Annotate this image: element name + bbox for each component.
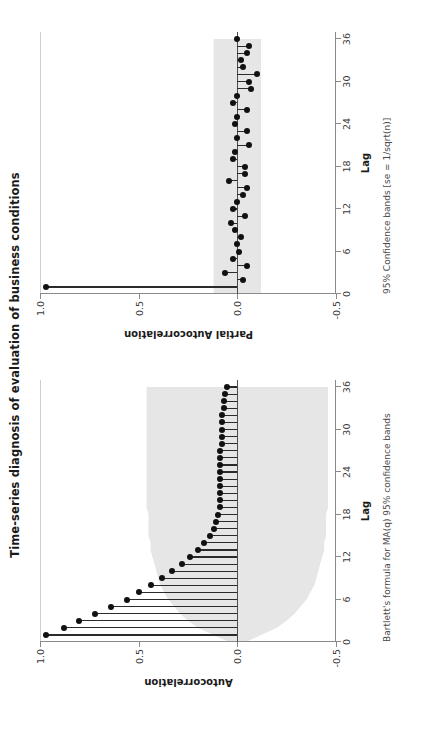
x-tick-label: 12 (341, 203, 352, 215)
stem (204, 542, 238, 543)
stem (46, 286, 237, 287)
data-point (248, 86, 254, 92)
x-tick-label: 18 (341, 161, 352, 173)
pacf-zero-line (237, 32, 238, 294)
y-tick-label: 0.5 (133, 649, 144, 664)
y-tick-label: 1.0 (35, 649, 46, 664)
data-point (244, 185, 250, 191)
data-point (43, 632, 49, 638)
stem (111, 606, 237, 607)
y-tick-label: -0.5 (331, 301, 342, 320)
y-tick (139, 642, 140, 647)
data-point (246, 79, 252, 85)
stem (151, 585, 238, 586)
data-point (217, 490, 223, 496)
y-tick (237, 642, 238, 647)
y-tick (336, 642, 337, 647)
data-point (124, 597, 130, 603)
data-point (108, 604, 114, 610)
data-point (219, 412, 225, 418)
pacf-y-axis-title-text: Partial Autocorrelation (124, 330, 253, 341)
stem (182, 564, 237, 565)
stem (172, 571, 237, 572)
x-tick-label: 24 (341, 118, 352, 130)
panel-autocorrelation: Autocorrelation 1.00.50.0-0.506121824303… (34, 364, 406, 694)
y-tick-label: 0.0 (232, 649, 243, 664)
y-tick (237, 294, 238, 299)
y-tick-label: 1.0 (35, 301, 46, 316)
rotated-figure-wrapper: Time-series diagnosis of evaluation of b… (0, 0, 439, 730)
data-point (217, 476, 223, 482)
acf-plot-area: 1.00.50.0-0.5061218243036 (40, 380, 336, 642)
data-point (236, 249, 242, 255)
data-point (207, 533, 213, 539)
stem (216, 521, 238, 522)
data-point (217, 497, 223, 503)
data-point (215, 512, 221, 518)
y-tick (40, 294, 41, 299)
pacf-x-axis-line (335, 32, 336, 294)
x-tick-label: 36 (341, 33, 352, 45)
x-tick-label: 12 (341, 551, 352, 563)
pacf-plot-area: 1.00.50.0-0.5061218243036 (40, 32, 336, 294)
panel-partial-autocorrelation: Partial Autocorrelation 1.00.50.0-0.5061… (34, 16, 406, 346)
stem (198, 549, 237, 550)
x-tick-label: 0 (341, 291, 352, 297)
pacf-confidence-band (40, 32, 336, 294)
data-point (217, 483, 223, 489)
data-point (219, 434, 225, 440)
stem (190, 556, 237, 557)
y-tick (40, 642, 41, 647)
x-tick-label: 0 (341, 639, 352, 645)
data-point (187, 554, 193, 560)
data-point (217, 469, 223, 475)
y-tick-label: 0.0 (232, 301, 243, 316)
acf-x-axis-line (335, 380, 336, 642)
data-point (148, 582, 154, 588)
x-tick-label: 30 (341, 76, 352, 88)
acf-y-axis-title: Autocorrelation (40, 676, 336, 690)
pacf-y-axis-title: Partial Autocorrelation (40, 328, 336, 342)
acf-note: Bartlett's formula for MA(q) 95% confide… (382, 342, 392, 642)
x-tick-label: 18 (341, 509, 352, 521)
data-point (43, 284, 49, 290)
data-point (219, 441, 225, 447)
x-tick-label: 24 (341, 466, 352, 478)
x-tick-label: 30 (341, 424, 352, 436)
figure-title: Time-series diagnosis of evaluation of b… (8, 0, 22, 730)
y-tick (336, 294, 337, 299)
data-point (230, 256, 236, 262)
data-point (217, 448, 223, 454)
y-tick-label: -0.5 (331, 649, 342, 668)
data-point (61, 625, 67, 631)
data-point (221, 405, 227, 411)
stem (162, 578, 237, 579)
stem (139, 592, 238, 593)
stem (79, 620, 237, 621)
data-point (219, 427, 225, 433)
acf-y-axis-line (40, 641, 336, 642)
acf-y-axis-title-text: Autocorrelation (144, 677, 232, 688)
stem (210, 535, 238, 536)
data-point (211, 526, 217, 532)
stem (95, 613, 237, 614)
x-tick-label: 6 (341, 596, 352, 602)
y-tick (139, 294, 140, 299)
data-point (92, 611, 98, 617)
acf-x-axis-title: Lag (360, 380, 371, 642)
acf-zero-line (237, 380, 238, 642)
data-point (217, 455, 223, 461)
data-point (195, 547, 201, 553)
stem (64, 627, 238, 628)
data-point (244, 263, 250, 269)
data-point (217, 462, 223, 468)
x-tick-label: 36 (341, 381, 352, 393)
pacf-note: 95% Confidence bands [se = 1/sqrt(n)] (382, 0, 392, 294)
stem (46, 634, 237, 635)
y-tick-label: 0.5 (133, 301, 144, 316)
pacf-x-axis-title: Lag (360, 32, 371, 294)
figure-canvas: Time-series diagnosis of evaluation of b… (0, 0, 439, 730)
data-point (221, 398, 227, 404)
x-tick-label: 6 (341, 248, 352, 254)
pacf-y-axis-line (40, 293, 336, 294)
